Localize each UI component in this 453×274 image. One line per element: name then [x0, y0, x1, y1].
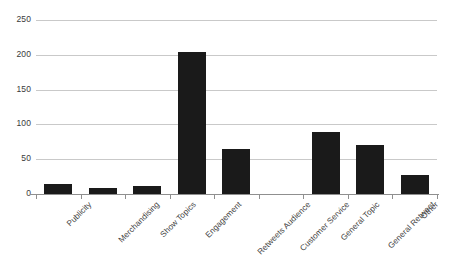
x-tick-mark [348, 195, 349, 199]
x-tick-label: Merchandising [117, 200, 161, 244]
bar-slot [170, 20, 215, 194]
y-tick-label: 100 [1, 119, 31, 128]
y-tick-label: 0 [1, 189, 31, 198]
x-tick-mark [437, 195, 438, 199]
x-tick-mark [303, 195, 304, 199]
bar-slot [303, 20, 348, 194]
x-tick-mark [214, 195, 215, 199]
x-tick-label: Show Topics [159, 200, 198, 239]
bar-slot [214, 20, 259, 194]
bar-slot [81, 20, 126, 194]
bar [44, 184, 72, 194]
bar-slot [392, 20, 437, 194]
y-tick-label: 250 [1, 15, 31, 24]
bar-slot [125, 20, 170, 194]
x-tick-mark [125, 195, 126, 199]
bar-slot [36, 20, 81, 194]
bar [222, 149, 250, 194]
bar [133, 186, 161, 194]
x-axis-labels: PublicityMerchandisingShow TopicsEngagem… [36, 200, 437, 274]
y-tick-label: 200 [1, 50, 31, 59]
x-tick-label: Other [419, 200, 440, 221]
bar-chart: 050100150200250 PublicityMerchandisingSh… [0, 0, 453, 274]
x-tick-mark [81, 195, 82, 199]
bar [312, 132, 340, 194]
bar [401, 175, 429, 194]
bar [178, 52, 206, 194]
x-tick-label: Publicity [65, 200, 93, 228]
bars-layer [36, 20, 437, 194]
y-tick-label: 50 [1, 154, 31, 163]
y-axis-labels: 050100150200250 [0, 20, 31, 194]
x-tick-mark [259, 195, 260, 199]
x-axis-line [30, 194, 439, 195]
y-tick-label: 150 [1, 85, 31, 94]
x-tick-mark [170, 195, 171, 199]
x-tick-mark [36, 195, 37, 199]
bar-slot [259, 20, 304, 194]
bar-slot [348, 20, 393, 194]
bar [356, 145, 384, 194]
x-tick-mark [392, 195, 393, 199]
x-tick-label: Engagement [204, 200, 244, 240]
